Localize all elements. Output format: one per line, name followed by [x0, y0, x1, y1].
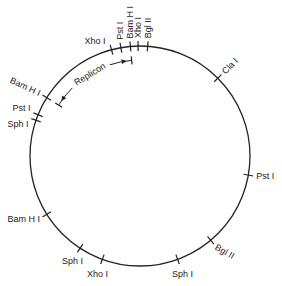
- site-label: Sph I: [62, 256, 83, 266]
- site-label: Bam H I: [8, 75, 42, 98]
- site-label: Bgl II: [143, 18, 153, 39]
- site-label: Pst I: [256, 171, 274, 181]
- replicon-arrowhead: [121, 59, 126, 64]
- site-tick: [77, 244, 82, 252]
- site-label: Bam H I: [7, 214, 40, 224]
- site-tick: [243, 174, 253, 176]
- site-label: Pst I: [13, 103, 31, 113]
- replicon-start-bar: [55, 103, 62, 107]
- site-tick: [42, 95, 50, 100]
- site-label: Xho I: [87, 269, 108, 279]
- site-label: Bgl II: [213, 242, 236, 261]
- replicon-end-bar: [131, 56, 132, 64]
- replicon-arrowhead: [61, 95, 66, 101]
- site-tick: [130, 41, 131, 51]
- site-label: Sph I: [7, 119, 28, 129]
- site-label: Pst I: [115, 22, 125, 40]
- site-label: Cla I: [220, 56, 240, 76]
- site-label: Sph I: [172, 269, 193, 279]
- site-tick: [42, 212, 50, 217]
- site-label: Xho I: [84, 36, 105, 46]
- site-label: Xho I: [133, 17, 143, 38]
- site-tick: [147, 41, 148, 51]
- plasmid-map: Xho IPst IBam H IXho IBgl IICla IPst IBg…: [0, 0, 282, 286]
- replicon-arrow: Replicon: [55, 56, 132, 107]
- site-tick: [120, 43, 122, 53]
